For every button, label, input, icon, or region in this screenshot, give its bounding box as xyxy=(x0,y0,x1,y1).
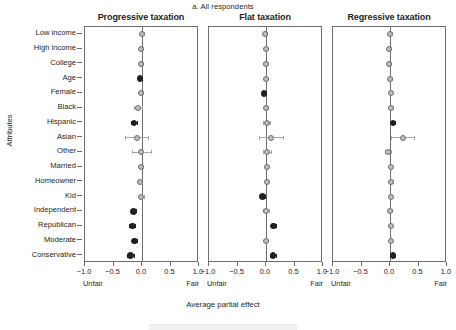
data-row[interactable] xyxy=(209,204,321,218)
data-row[interactable] xyxy=(85,145,197,159)
data-row[interactable] xyxy=(333,190,445,204)
data-point-marker[interactable] xyxy=(264,120,270,126)
data-point-marker[interactable] xyxy=(388,179,394,185)
data-row[interactable] xyxy=(333,116,445,130)
data-point-marker[interactable] xyxy=(388,238,394,244)
data-row[interactable] xyxy=(85,234,197,248)
data-row[interactable] xyxy=(85,131,197,145)
data-row[interactable] xyxy=(333,27,445,41)
data-point-marker[interactable] xyxy=(139,31,145,37)
data-point-marker[interactable] xyxy=(263,238,269,244)
data-row[interactable] xyxy=(209,27,321,41)
data-point-marker[interactable] xyxy=(138,90,144,96)
data-row[interactable] xyxy=(209,219,321,233)
data-row[interactable] xyxy=(85,86,197,100)
data-row[interactable] xyxy=(333,204,445,218)
data-row[interactable] xyxy=(333,101,445,115)
data-point-marker[interactable] xyxy=(388,223,394,229)
data-point-marker[interactable] xyxy=(388,105,394,111)
data-row[interactable] xyxy=(85,160,197,174)
data-row[interactable] xyxy=(209,131,321,145)
data-point-marker[interactable] xyxy=(263,76,269,82)
data-point-marker[interactable] xyxy=(263,61,269,67)
data-row[interactable] xyxy=(333,160,445,174)
data-point-marker[interactable] xyxy=(138,194,144,200)
data-point-marker[interactable] xyxy=(262,31,268,37)
data-point-marker[interactable] xyxy=(138,61,144,67)
data-point-marker[interactable] xyxy=(270,252,276,258)
data-point-marker[interactable] xyxy=(386,61,392,67)
data-point-marker[interactable] xyxy=(259,193,265,199)
data-row[interactable] xyxy=(209,116,321,130)
data-row[interactable] xyxy=(333,249,445,263)
data-point-marker[interactable] xyxy=(131,238,137,244)
data-point-marker[interactable] xyxy=(261,90,267,96)
data-row[interactable] xyxy=(209,234,321,248)
data-point-marker[interactable] xyxy=(388,194,394,200)
data-point-marker[interactable] xyxy=(390,120,396,126)
data-row[interactable] xyxy=(333,131,445,145)
data-row[interactable] xyxy=(333,57,445,71)
data-point-marker[interactable] xyxy=(263,46,269,52)
data-point-marker[interactable] xyxy=(264,164,270,170)
data-row[interactable] xyxy=(85,116,197,130)
data-point-marker[interactable] xyxy=(137,179,143,185)
data-row[interactable] xyxy=(85,175,197,189)
data-point-marker[interactable] xyxy=(127,252,133,258)
data-row[interactable] xyxy=(209,145,321,159)
data-row[interactable] xyxy=(209,86,321,100)
data-point-marker[interactable] xyxy=(387,31,393,37)
y-axis-label-conservative: Conservative xyxy=(32,248,76,262)
data-point-marker[interactable] xyxy=(264,179,270,185)
data-row[interactable] xyxy=(209,57,321,71)
data-row[interactable] xyxy=(85,101,197,115)
data-point-marker[interactable] xyxy=(385,149,391,155)
data-point-marker[interactable] xyxy=(138,149,144,155)
data-row[interactable] xyxy=(85,204,197,218)
data-point-marker[interactable] xyxy=(387,208,393,214)
x-axis-tick xyxy=(446,262,447,266)
data-point-marker[interactable] xyxy=(138,46,144,52)
data-row[interactable] xyxy=(333,234,445,248)
data-point-marker[interactable] xyxy=(388,90,394,96)
data-point-marker[interactable] xyxy=(270,223,276,229)
data-point-marker[interactable] xyxy=(387,76,393,82)
data-point-marker[interactable] xyxy=(134,135,140,141)
data-row[interactable] xyxy=(85,190,197,204)
data-point-marker[interactable] xyxy=(268,135,274,141)
data-row[interactable] xyxy=(333,175,445,189)
data-point-marker[interactable] xyxy=(137,75,143,81)
data-row[interactable] xyxy=(209,175,321,189)
data-row[interactable] xyxy=(333,145,445,159)
data-row[interactable] xyxy=(85,72,197,86)
data-point-marker[interactable] xyxy=(263,208,269,214)
data-row[interactable] xyxy=(209,101,321,115)
data-point-marker[interactable] xyxy=(386,46,392,52)
data-point-marker[interactable] xyxy=(264,149,270,155)
data-row[interactable] xyxy=(85,219,197,233)
data-point-marker[interactable] xyxy=(138,164,144,170)
data-point-marker[interactable] xyxy=(388,164,394,170)
data-row[interactable] xyxy=(209,42,321,56)
data-point-marker[interactable] xyxy=(129,223,135,229)
data-point-marker[interactable] xyxy=(263,105,269,111)
data-row[interactable] xyxy=(85,42,197,56)
y-axis-tick xyxy=(77,195,82,196)
data-point-marker[interactable] xyxy=(131,120,137,126)
data-point-marker[interactable] xyxy=(130,208,136,214)
data-row[interactable] xyxy=(333,72,445,86)
data-row[interactable] xyxy=(333,42,445,56)
data-point-marker[interactable] xyxy=(390,252,396,258)
data-row[interactable] xyxy=(209,160,321,174)
data-row[interactable] xyxy=(85,57,197,71)
data-row[interactable] xyxy=(333,86,445,100)
data-point-marker[interactable] xyxy=(400,135,406,141)
data-row[interactable] xyxy=(333,219,445,233)
data-row[interactable] xyxy=(209,72,321,86)
data-row[interactable] xyxy=(209,249,321,263)
data-point-marker[interactable] xyxy=(135,105,141,111)
x-axis-tick-label: 1.0 xyxy=(433,267,456,276)
data-row[interactable] xyxy=(85,27,197,41)
data-row[interactable] xyxy=(209,190,321,204)
data-row[interactable] xyxy=(85,249,197,263)
